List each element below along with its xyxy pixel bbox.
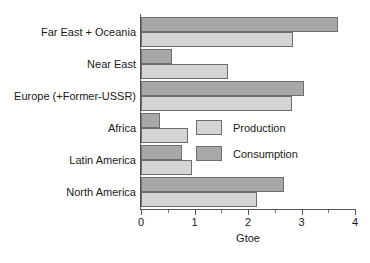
category-label: Africa bbox=[0, 122, 136, 134]
category-label: Latin America bbox=[0, 154, 136, 166]
x-tick-label: 3 bbox=[298, 216, 304, 228]
bar-production bbox=[141, 32, 293, 47]
legend-label-production: Production bbox=[233, 122, 286, 134]
bar-consumption bbox=[141, 81, 304, 96]
x-minor-tick bbox=[168, 210, 169, 213]
category-label: Far East + Oceania bbox=[0, 26, 136, 38]
bar-consumption bbox=[141, 113, 160, 128]
x-tick bbox=[195, 210, 196, 215]
x-tick bbox=[141, 210, 142, 215]
x-tick bbox=[355, 210, 356, 215]
legend-swatch-production-icon bbox=[196, 120, 222, 135]
bar-production bbox=[141, 192, 257, 207]
x-tick bbox=[302, 210, 303, 215]
bar-production bbox=[141, 64, 228, 79]
y-axis-line bbox=[140, 14, 141, 210]
legend-item-consumption: Consumption bbox=[196, 146, 298, 161]
x-tick-label: 4 bbox=[352, 216, 358, 228]
bar-consumption bbox=[141, 49, 172, 64]
bar-production bbox=[141, 160, 192, 175]
x-tick-label: 0 bbox=[138, 216, 144, 228]
bar-chart: Far East + OceaniaNear EastEurope (+Form… bbox=[0, 0, 370, 263]
category-label: Europe (+Former-USSR) bbox=[0, 90, 136, 102]
category-label: Near East bbox=[0, 58, 136, 70]
plot-area bbox=[141, 15, 355, 208]
bar-production bbox=[141, 128, 188, 143]
legend-item-production: Production bbox=[196, 120, 298, 135]
legend-label-consumption: Consumption bbox=[233, 148, 298, 160]
x-tick-label: 2 bbox=[245, 216, 251, 228]
x-tick bbox=[248, 210, 249, 215]
x-minor-tick bbox=[221, 210, 222, 213]
x-minor-tick bbox=[275, 210, 276, 213]
x-axis-title: Gtoe bbox=[236, 232, 260, 244]
legend-swatch-consumption-icon bbox=[196, 146, 222, 161]
legend: Production Consumption bbox=[196, 120, 298, 172]
bar-consumption bbox=[141, 177, 284, 192]
x-tick-label: 1 bbox=[191, 216, 197, 228]
bar-production bbox=[141, 96, 292, 111]
x-minor-tick bbox=[328, 210, 329, 213]
category-label: North America bbox=[0, 186, 136, 198]
bar-consumption bbox=[141, 145, 182, 160]
bar-consumption bbox=[141, 17, 338, 32]
